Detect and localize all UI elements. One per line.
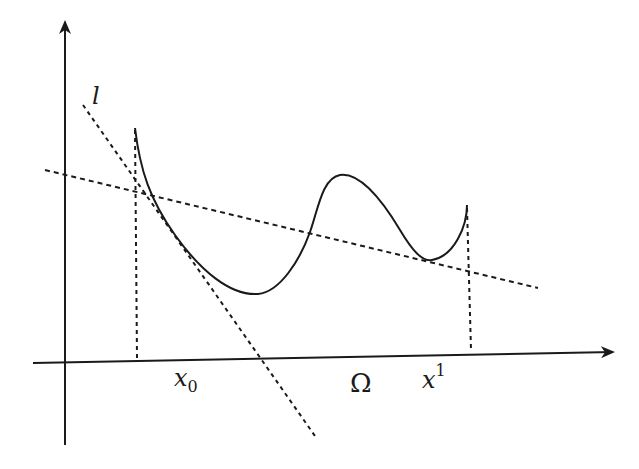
label-omega: Ω (350, 368, 372, 398)
vertical-line-x1 (467, 208, 471, 350)
label-x0: x0 (174, 364, 198, 396)
label-x1: x1 (422, 361, 446, 394)
vertical-line-x0 (135, 130, 137, 358)
diagram-canvas: l x0 Ω x1 (0, 0, 639, 469)
label-tangent-l: l (92, 82, 100, 110)
tangent-line-l (83, 105, 315, 436)
x-axis (33, 352, 613, 363)
function-curve (135, 128, 467, 294)
